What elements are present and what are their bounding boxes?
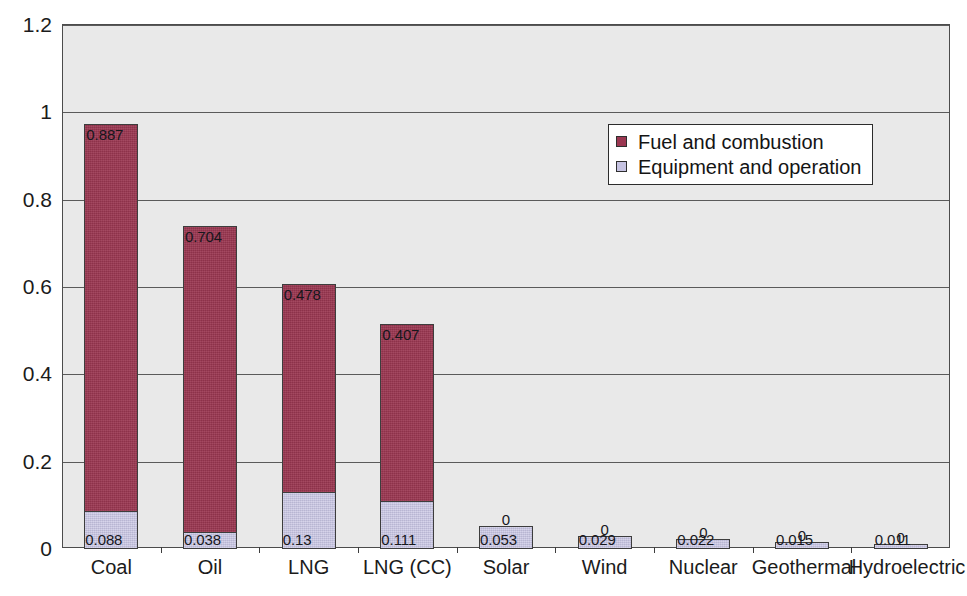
x-tick-label-solar: Solar: [483, 556, 530, 578]
x-tick-label-nuclear: Nuclear: [669, 556, 738, 578]
y-tick-label: 0.6: [0, 276, 52, 297]
x-tick-label-hydroelectric: Hydroelectric: [849, 556, 966, 578]
x-axis: Coal Oil LNG LNG (CC) Solar Wind Nuclear…: [62, 556, 950, 586]
bar-stack[interactable]: 0 0.022: [676, 539, 730, 548]
bar-slot-solar: 0 0.053: [457, 24, 556, 548]
bar-segment-fuel[interactable]: 0.407: [380, 324, 434, 502]
bar-value-label: 0.478: [284, 287, 321, 302]
bar-slot-hydroelectric: 0 0.011: [851, 24, 950, 548]
bar-segment-fuel[interactable]: 0.478: [282, 284, 336, 493]
bar-segment-equipment[interactable]: 0.088: [84, 511, 138, 549]
bar-value-label: 0.011: [875, 532, 911, 547]
y-tick-label: 1: [0, 101, 52, 122]
bar-value-label: 0.407: [382, 327, 419, 342]
x-tick-label-geothermal: Geothermal: [752, 556, 857, 578]
y-tick-label: 0.8: [0, 188, 52, 209]
legend-swatch-icon: [616, 161, 627, 172]
stacked-bar-chart: 1.2 1 0.8 0.6 0.4 0.2 0 0.887 0.088: [0, 0, 967, 596]
y-tick-label: 0.2: [0, 450, 52, 471]
bar-stack[interactable]: 0 0.029: [578, 536, 632, 548]
x-tick-label-coal: Coal: [91, 556, 132, 578]
y-tick-label: 1.2: [0, 14, 52, 35]
bar-segment-equipment[interactable]: 0 0.022: [676, 539, 730, 549]
bar-slot-oil: 0.704 0.038: [161, 24, 260, 548]
legend-item-equipment-and-operation[interactable]: Equipment and operation: [616, 154, 862, 179]
bar-stack[interactable]: 0 0.011: [874, 544, 928, 548]
bar-value-label: 0.038: [184, 532, 221, 547]
bar-stack[interactable]: 0.704 0.038: [183, 226, 237, 548]
bar-segment-equipment[interactable]: 0.13: [282, 492, 336, 549]
legend-item-label: Equipment and operation: [638, 157, 862, 177]
bar-segment-equipment[interactable]: 0 0.029: [578, 536, 632, 549]
bar-stack[interactable]: 0 0.053: [479, 526, 533, 548]
y-tick-label: 0.4: [0, 363, 52, 384]
bar-segment-equipment[interactable]: 0 0.011: [874, 544, 928, 549]
bar-stack[interactable]: 0.478 0.13: [282, 284, 336, 548]
bar-slot-lng: 0.478 0.13: [259, 24, 358, 548]
bar-value-label: 0.053: [480, 532, 517, 547]
x-tick-label-lng-cc: LNG (CC): [363, 556, 452, 578]
bar-stack[interactable]: 0 0.015: [775, 542, 829, 548]
bar-slot-lng-cc: 0.407 0.111: [358, 24, 457, 548]
bar-slot-wind: 0 0.029: [555, 24, 654, 548]
x-tick-label-oil: Oil: [198, 556, 222, 578]
bar-value-label: 0.022: [677, 532, 714, 547]
bar-segment-fuel[interactable]: 0.887: [84, 124, 138, 511]
bar-value-label: 0.088: [85, 532, 122, 547]
bar-value-label: 0.887: [86, 127, 123, 142]
bar-slot-nuclear: 0 0.022: [654, 24, 753, 548]
bar-segment-equipment[interactable]: 0 0.015: [775, 542, 829, 549]
bar-segment-equipment[interactable]: 0.111: [380, 501, 434, 549]
bar-slot-geothermal: 0 0.015: [753, 24, 852, 548]
bar-value-label: 0.111: [381, 532, 416, 547]
bar-value-label: 0: [502, 512, 510, 527]
legend-item-fuel-and-combustion[interactable]: Fuel and combustion: [616, 129, 862, 154]
bar-segment-fuel[interactable]: 0.704: [183, 226, 237, 533]
legend-item-label: Fuel and combustion: [638, 132, 824, 152]
bar-segment-equipment[interactable]: 0.038: [183, 532, 237, 549]
legend: Fuel and combustion Equipment and operat…: [608, 124, 873, 185]
x-tick-label-wind: Wind: [582, 556, 628, 578]
bar-slot-coal: 0.887 0.088: [62, 24, 161, 548]
bars-layer: 0.887 0.088 0.704 0.038: [62, 24, 950, 548]
x-tick-label-lng: LNG: [288, 556, 329, 578]
bar-value-label: 0.029: [579, 532, 616, 547]
bar-stack[interactable]: 0.887 0.088: [84, 124, 138, 548]
bar-value-label: 0.13: [283, 532, 312, 547]
y-tick-label: 0: [0, 538, 52, 559]
bar-stack[interactable]: 0.407 0.111: [380, 324, 434, 548]
bar-value-label: 0.015: [776, 532, 813, 547]
bar-value-label: 0.704: [185, 229, 222, 244]
legend-swatch-icon: [616, 136, 627, 147]
bar-segment-equipment[interactable]: 0 0.053: [479, 526, 533, 549]
